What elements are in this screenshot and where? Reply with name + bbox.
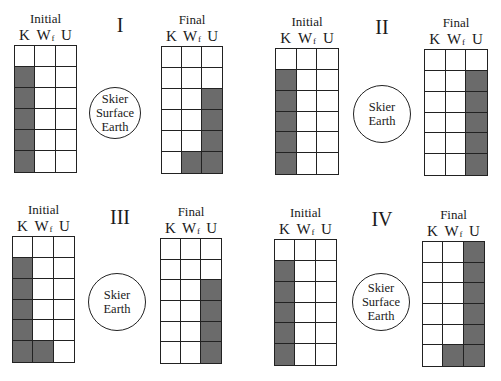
grid-cell-wf: [446, 92, 467, 113]
chart-title: Initial: [267, 15, 347, 29]
column-label-k: K: [422, 223, 443, 242]
grid-cell-u: [56, 130, 76, 151]
panel-label: I: [95, 14, 145, 36]
grid-cell-wf: [297, 132, 318, 153]
grid-cell-u: [201, 260, 221, 281]
grid-cell-wf: [295, 282, 315, 303]
grid-cell-k: [423, 345, 443, 366]
grid-cell-k: [423, 325, 443, 346]
column-label-u: U: [201, 220, 222, 239]
grid-cell-u: [56, 109, 76, 130]
column-label-k: K: [14, 27, 35, 46]
system-object-label: Skier: [369, 100, 395, 114]
grid-cell-wf: [181, 342, 201, 363]
grid-cell-u: [316, 303, 336, 324]
grid-cell-k: [276, 49, 297, 70]
chart-title: Initial: [266, 206, 346, 220]
grid-cell-u: [464, 283, 484, 304]
grid-cell-wf: [35, 130, 55, 151]
grid-cell-k: [161, 280, 181, 301]
grid-cell-u: [316, 323, 336, 344]
grid-cell-wf: [35, 46, 55, 67]
grid-cell-k: [13, 258, 33, 279]
grid-cell-k: [15, 46, 35, 67]
grid-cell-k: [161, 260, 181, 281]
grid-cell-u: [56, 88, 76, 109]
grid-cell-u: [466, 50, 487, 71]
grid-cell-u: [317, 49, 338, 70]
chart-title: Final: [151, 205, 231, 219]
chart-title: Final: [152, 13, 232, 27]
grid-cell-k: [15, 67, 35, 88]
grid-cell-k: [162, 68, 182, 89]
energy-grid: [274, 239, 337, 366]
system-object-label: Earth: [367, 309, 394, 323]
grid-cell-u: [56, 46, 76, 67]
grid-cell-u: [201, 280, 221, 301]
chart-title: Initial: [4, 203, 84, 217]
grid-cell-u: [202, 131, 222, 152]
grid-cell-u: [317, 112, 338, 133]
grid-cell-u: [56, 151, 76, 172]
column-label-u: U: [318, 30, 339, 49]
grid-cell-u: [56, 67, 76, 88]
grid-cell-u: [202, 152, 222, 173]
grid-cell-k: [15, 130, 35, 151]
grid-cell-wf: [182, 68, 202, 89]
column-labels: KWfU: [275, 30, 339, 49]
column-label-u: U: [54, 218, 75, 237]
column-label-wf: Wf: [295, 221, 316, 240]
grid-cell-u: [466, 92, 487, 113]
grid-cell-k: [423, 263, 443, 284]
grid-cell-wf: [35, 151, 55, 172]
grid-cell-k: [423, 283, 443, 304]
grid-cell-k: [162, 47, 182, 68]
column-labels: KWfU: [424, 31, 488, 50]
grid-cell-wf: [182, 47, 202, 68]
grid-cell-u: [316, 344, 336, 365]
grid-cell-wf: [33, 279, 53, 300]
panel-label: II: [357, 16, 407, 38]
grid-cell-u: [202, 89, 222, 110]
grid-cell-wf: [35, 109, 55, 130]
grid-cell-wf: [297, 112, 318, 133]
grid-cell-wf: [443, 242, 463, 263]
column-labels: KWfU: [160, 220, 222, 239]
grid-cell-u: [317, 153, 338, 174]
grid-cell-u: [54, 279, 74, 300]
grid-cell-k: [13, 300, 33, 321]
grid-cell-k: [276, 91, 297, 112]
grid-cell-u: [54, 258, 74, 279]
grid-cell-wf: [295, 323, 315, 344]
system-object-label: Surface: [362, 295, 400, 309]
grid-cell-wf: [443, 283, 463, 304]
grid-cell-wf: [182, 89, 202, 110]
grid-cell-wf: [33, 258, 53, 279]
grid-cell-wf: [443, 345, 463, 366]
grid-cell-k: [15, 151, 35, 172]
grid-cell-u: [317, 132, 338, 153]
column-label-u: U: [56, 27, 77, 46]
column-label-wf: Wf: [181, 220, 202, 239]
grid-cell-k: [161, 239, 181, 260]
panel-label: IV: [357, 208, 407, 230]
grid-cell-k: [13, 341, 33, 362]
grid-cell-u: [464, 263, 484, 284]
grid-cell-u: [316, 240, 336, 261]
grid-cell-u: [201, 322, 221, 343]
grid-cell-k: [425, 50, 446, 71]
column-label-k: K: [275, 30, 296, 49]
grid-cell-k: [423, 304, 443, 325]
chart-title: Final: [414, 208, 494, 222]
grid-cell-wf: [297, 49, 318, 70]
grid-cell-wf: [446, 50, 467, 71]
system-object-label: Surface: [96, 106, 134, 120]
grid-cell-k: [161, 342, 181, 363]
grid-cell-u: [54, 300, 74, 321]
system-object-label: Earth: [101, 120, 128, 134]
column-label-wf: Wf: [296, 30, 317, 49]
grid-cell-k: [275, 261, 295, 282]
grid-cell-wf: [295, 344, 315, 365]
grid-cell-k: [275, 323, 295, 344]
column-labels: KWfU: [12, 218, 75, 237]
